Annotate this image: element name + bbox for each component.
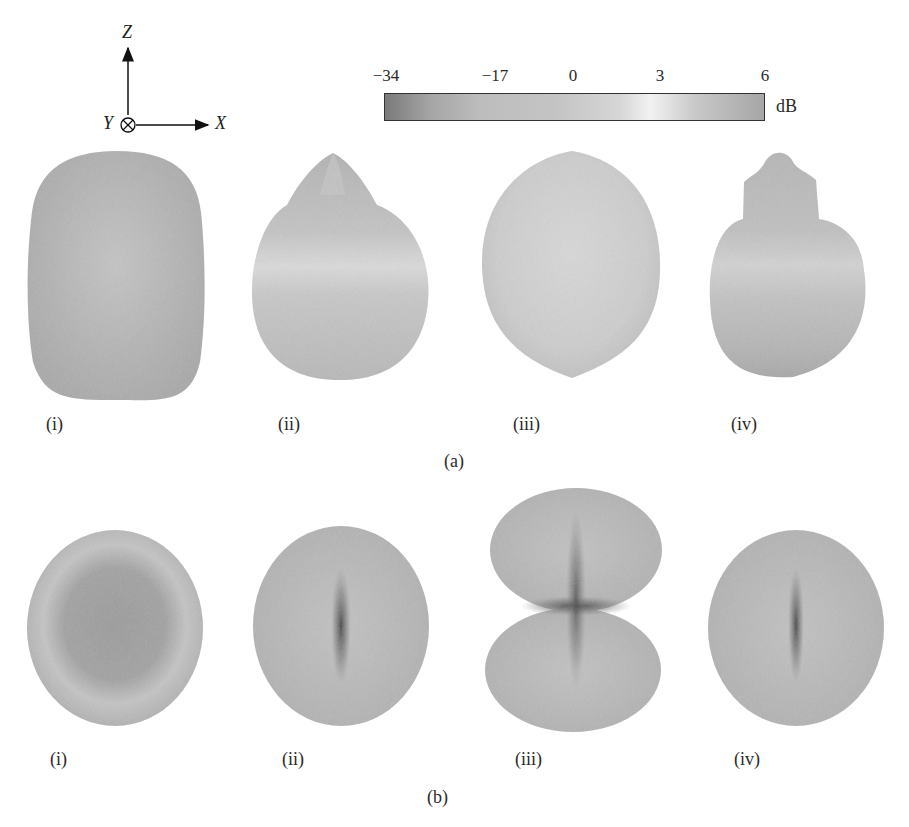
row-b-patterns (27, 488, 884, 732)
label-a-iv: (iv) (731, 414, 757, 435)
row-a-patterns (28, 151, 866, 400)
x-axis-label: X (215, 113, 226, 134)
colorbar-tick: −17 (482, 66, 509, 86)
label-a-iii: (iii) (513, 414, 540, 435)
figure-canvas (0, 0, 909, 827)
colorbar (384, 93, 765, 121)
pattern-b-iii (485, 488, 662, 732)
colorbar-tick: 3 (656, 66, 665, 86)
caption-a: (a) (444, 451, 464, 472)
colorbar-tick: 0 (569, 66, 578, 86)
label-b-iv: (iv) (734, 749, 760, 770)
pattern-a-iii (482, 151, 660, 378)
y-axis-into-page-icon (121, 118, 135, 132)
axis-indicator (121, 48, 208, 132)
label-b-ii: (ii) (282, 749, 304, 770)
colorbar-tick: −34 (373, 66, 400, 86)
pattern-a-i (28, 151, 205, 400)
y-axis-label: Y (103, 113, 113, 134)
pattern-b-iv (708, 530, 884, 726)
colorbar-unit: dB (776, 96, 797, 117)
label-a-i: (i) (46, 414, 63, 435)
label-a-ii: (ii) (278, 414, 300, 435)
pattern-b-ii (253, 526, 429, 726)
caption-b: (b) (427, 787, 448, 808)
colorbar-tick: 6 (761, 66, 770, 86)
label-b-iii: (iii) (515, 749, 542, 770)
label-b-i: (i) (50, 749, 67, 770)
pattern-a-iv (710, 153, 866, 378)
pattern-b-i (27, 530, 203, 726)
z-axis-label: Z (122, 22, 132, 43)
